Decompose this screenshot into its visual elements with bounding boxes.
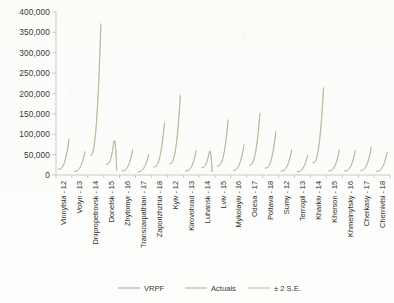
curve-12-2 [249,113,260,165]
curve-13-2 [265,131,275,168]
y-tick-label-2: 100,000 [19,129,50,139]
y-tick-label-0: 0 [45,170,50,180]
x-tick-label-9: Luhansk - 14 [203,181,212,223]
y-tick-label-4: 200,000 [19,89,50,99]
x-tick-label-15: Ternopil - 13 [298,181,307,221]
series-2-s-e [59,23,388,172]
curve-10-2 [218,119,229,166]
x-tick-label-17: Kherson - 15 [330,181,339,223]
y-tick-label-7: 350,000 [19,27,50,37]
x-tick-label-16: Kharkiv - 14 [314,181,323,220]
curve-0-1 [59,140,70,169]
x-tick-label-8: Kirovohrad - 13 [187,181,196,231]
x-tick-label-0: Vinnytsia - 12 [59,181,68,225]
curve-8-2 [186,150,197,171]
x-tick-label-7: Kyiv - 12 [171,181,180,209]
curve-5-2 [138,154,149,171]
curve-3-2 [106,140,117,170]
y-tick-label-3: 150,000 [19,109,50,119]
curve-15-2 [297,155,307,172]
curve-13-1 [265,133,275,169]
curve-20-2 [377,152,388,172]
x-tick-labels: Vinnytsia - 12Volyn - 13Dnipropetrovsk -… [59,181,386,248]
curve-4-2 [122,149,133,171]
chart-container: 050,000100,000150,000200,000250,000300,0… [0,0,394,303]
y-tick-label-6: 300,000 [19,48,50,58]
region-forecast-line-chart: 050,000100,000150,000200,000250,000300,0… [0,0,394,303]
y-tick-label-8: 400,000 [19,7,50,17]
curve-9-2 [202,151,212,172]
chart-legend: VRPFActuals± 2 S.E. [118,284,301,293]
curve-17-2 [329,149,339,171]
x-tick-label-2: Dnipropetrovsk - 14 [91,181,100,245]
x-tick-label-3: Donetsk - 15 [107,181,116,222]
x-tick-label-12: Odesa - 17 [250,181,259,217]
x-tick-label-14: Sumy - 12 [282,181,291,214]
curve-1-2 [74,151,85,171]
x-tick-label-13: Poltava - 18 [266,181,275,220]
x-tick-label-5: Transcarpathian - 17 [139,181,148,248]
x-tick-label-11: Mykolayiv - 16 [234,181,243,228]
x-tick-label-1: Volyn - 13 [75,181,84,213]
x-tick-label-4: Zhytomyr - 16 [123,181,132,226]
legend-label-0: VRPF [144,284,165,293]
x-tick-label-6: Zaporizhzhia - 18 [155,181,164,237]
curve-16-2 [313,87,324,163]
y-tick-label-5: 250,000 [19,68,50,78]
curve-6-1 [154,124,165,167]
curve-19-2 [361,147,371,171]
y-axis: 050,000100,000150,000200,000250,000300,0… [19,7,56,180]
curve-11-2 [234,144,244,170]
curve-6-2 [154,122,165,167]
series-vrpf [59,24,388,172]
y-tick-label-1: 50,000 [24,150,50,160]
curve-2-2 [90,23,101,156]
x-tick-label-20: Chernivtsi - 18 [378,181,387,228]
x-tick-label-19: Cherkasy - 17 [362,181,371,226]
x-axis [56,12,390,178]
series-layer [59,23,388,172]
curve-10-1 [218,121,229,166]
curve-18-2 [345,150,356,171]
legend-label-1: Actuals [211,284,236,293]
x-tick-label-10: Lviv - 15 [219,181,228,208]
curve-7-2 [170,94,181,163]
curve-0-2 [59,138,70,169]
curve-14-2 [281,149,292,171]
legend-label-2: ± 2 S.E. [274,284,301,293]
x-tick-label-18: Khmelnytsky - 16 [346,181,355,237]
series-actuals [59,26,388,172]
